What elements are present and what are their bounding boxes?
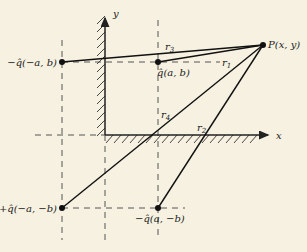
label-r4: r4 (161, 109, 170, 122)
point-P (260, 42, 266, 48)
x-axis-label: x (276, 130, 282, 141)
point-pos-q-neg-a-neg-b (59, 205, 65, 211)
horizontal-conductor-wall (106, 135, 257, 143)
label-pos-q-neg-a-neg-b: +q̂(−a, −b) (0, 203, 57, 214)
vertical-conductor-wall (97, 16, 105, 136)
label-r1: r1 (222, 57, 231, 70)
label-neg-q-neg-a-b: −q̂(−a, b) (7, 57, 57, 68)
point-q-a-b (155, 59, 161, 65)
point-neg-q-a-neg-b (155, 205, 161, 211)
label-r2: r2 (197, 122, 207, 135)
point-neg-q-neg-a-b (59, 59, 65, 65)
line-r3 (62, 45, 263, 62)
image-charges-diagram: y x −q̂(−a, b) q̂(a, b) P(x, y) +q̂(−a, … (0, 0, 307, 252)
label-q-a-b: q̂(a, b) (157, 67, 190, 78)
label-P: P(x, y) (267, 39, 300, 50)
label-neg-q-a-neg-b: −q̂(a, −b) (135, 213, 185, 224)
y-axis-label: y (112, 8, 119, 19)
label-r3: r3 (165, 41, 175, 54)
